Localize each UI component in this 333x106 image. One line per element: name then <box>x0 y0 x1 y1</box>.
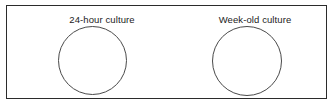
culture-comparison-figure: 24-hour culture Week-old culture <box>0 0 333 106</box>
panel-24-hour-culture: 24-hour culture <box>37 6 167 98</box>
petri-dish-24-hour <box>58 26 127 95</box>
figure-frame: 24-hour culture Week-old culture <box>6 5 327 99</box>
panel-week-old-culture: Week-old culture <box>187 6 323 98</box>
panel-label-24-hour-culture: 24-hour culture <box>37 14 167 26</box>
petri-dish-week-old <box>212 26 282 96</box>
panel-label-week-old-culture: Week-old culture <box>187 14 323 26</box>
